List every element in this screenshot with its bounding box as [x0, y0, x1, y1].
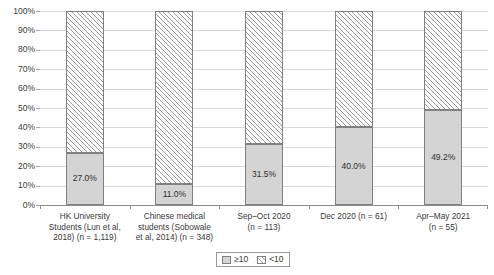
- hatched-swatch: [257, 256, 266, 264]
- y-axis-tick-label: 10%: [1, 181, 35, 190]
- bar-group[interactable]: 31.5%: [245, 11, 283, 205]
- legend-item-label: ≥10: [234, 255, 248, 264]
- stacked-bar-chart: 100%90%80%70%60%50%40%30%20%10%0% 27.0%1…: [0, 0, 494, 275]
- x-axis-tick-mark: [487, 205, 488, 209]
- x-axis-category-label: Sep–Oct 2020(n = 113): [219, 211, 309, 232]
- category-label-line: students (Sobowale: [130, 222, 220, 233]
- x-axis-tick-mark: [40, 205, 41, 209]
- y-axis-tick-label: 50%: [1, 104, 35, 113]
- bar-data-label: 11.0%: [155, 190, 193, 199]
- x-axis-category-label: Dec 2020 (n = 61): [309, 211, 399, 222]
- category-label-line: 2018) (n = 1,119): [40, 232, 130, 243]
- x-axis: HK UniversityStudents (Lun et al,2018) (…: [40, 205, 488, 251]
- bar-group[interactable]: 27.0%: [66, 11, 104, 205]
- y-axis-tick-label: 70%: [1, 65, 35, 74]
- bar-data-label: 49.2%: [424, 153, 462, 162]
- bar-group[interactable]: 49.2%: [424, 11, 462, 205]
- x-axis-tick-mark: [309, 205, 310, 209]
- bar-group[interactable]: 40.0%: [335, 11, 373, 205]
- y-axis-tick-label: 40%: [1, 123, 35, 132]
- plot-area: 27.0%11.0%31.5%40.0%49.2%: [40, 11, 488, 205]
- x-axis-category-label: Apr–May 2021(n = 55): [398, 211, 488, 232]
- x-axis-category-label: Chinese medicalstudents (Sobowaleet al, …: [130, 211, 220, 243]
- legend-item-label: <10: [269, 255, 283, 264]
- bar-segment-less-than-10[interactable]: [155, 11, 193, 184]
- category-label-line: Apr–May 2021: [398, 211, 488, 222]
- category-label-line: Sep–Oct 2020: [219, 211, 309, 222]
- y-axis-tick-label: 90%: [1, 26, 35, 35]
- x-axis-tick-mark: [130, 205, 131, 209]
- bar-data-label: 40.0%: [335, 162, 373, 171]
- bar-group[interactable]: 11.0%: [155, 11, 193, 205]
- y-axis-tick-label: 60%: [1, 84, 35, 93]
- legend-item[interactable]: <10: [257, 255, 283, 264]
- bar-data-label: 31.5%: [245, 170, 283, 179]
- bar-segment-less-than-10[interactable]: [424, 11, 462, 110]
- bar-segment-less-than-10[interactable]: [335, 11, 373, 127]
- category-label-line: Students (Lun et al,: [40, 222, 130, 233]
- x-axis-tick-mark: [219, 205, 220, 209]
- y-axis: 100%90%80%70%60%50%40%30%20%10%0%: [0, 0, 40, 216]
- category-label-line: Chinese medical: [130, 211, 220, 222]
- category-label-line: (n = 55): [398, 222, 488, 233]
- chart-legend: ≥10<10: [216, 252, 290, 267]
- bar-segment-less-than-10[interactable]: [245, 11, 283, 144]
- category-label-line: Dec 2020 (n = 61): [309, 211, 399, 222]
- category-label-line: (n = 113): [219, 222, 309, 233]
- y-axis-tick-label: 20%: [1, 162, 35, 171]
- bar-segment-less-than-10[interactable]: [66, 11, 104, 153]
- x-axis-tick-mark: [398, 205, 399, 209]
- y-axis-tick-label: 80%: [1, 45, 35, 54]
- y-axis-tick-label: 30%: [1, 142, 35, 151]
- legend-item[interactable]: ≥10: [222, 255, 248, 264]
- category-label-line: et al, 2014) (n = 348): [130, 232, 220, 243]
- solid-gray-swatch: [222, 256, 231, 264]
- y-axis-tick-label: 100%: [1, 7, 35, 16]
- category-label-line: HK University: [40, 211, 130, 222]
- bar-data-label: 27.0%: [66, 174, 104, 183]
- x-axis-category-label: HK UniversityStudents (Lun et al,2018) (…: [40, 211, 130, 243]
- y-axis-tick-label: 0%: [1, 201, 35, 210]
